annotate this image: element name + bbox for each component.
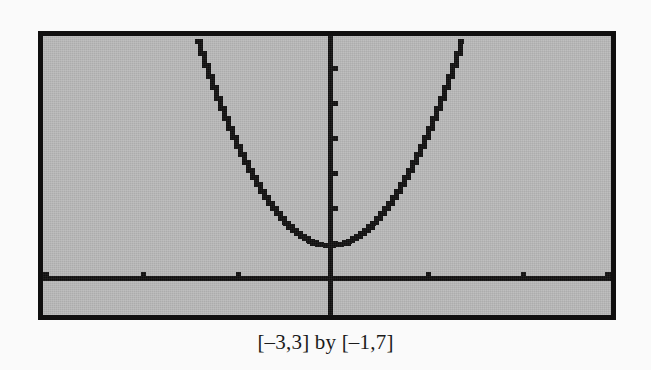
- figure-caption: [–3,3] by [–1,7]: [0, 330, 651, 355]
- x-axis-right-nub: [605, 272, 611, 277]
- y-tick-3: [333, 171, 338, 176]
- y-tick-6: [333, 66, 338, 71]
- graphing-calculator-figure: [–3,3] by [–1,7]: [0, 0, 651, 370]
- x-tick-minus-2: [141, 272, 146, 277]
- curve-pixel: [458, 39, 463, 56]
- y-axis-line: [328, 36, 333, 315]
- y-tick-4: [333, 136, 338, 141]
- calculator-viewport: [38, 31, 616, 320]
- x-axis-group: [43, 272, 611, 281]
- plot-canvas: [43, 36, 611, 315]
- y-axis-group: [328, 36, 338, 315]
- curve-pixel: [314, 240, 319, 246]
- x-axis-left-nub: [43, 272, 49, 277]
- y-tick-2: [333, 206, 338, 211]
- x-tick-1: [426, 272, 431, 277]
- y-tick-5: [333, 101, 338, 106]
- x-tick-2: [521, 272, 526, 277]
- x-tick-minus-1: [236, 272, 241, 277]
